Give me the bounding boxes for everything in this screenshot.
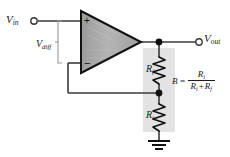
- output-voltage-subscript: out: [211, 37, 221, 46]
- inverting-input-icon: −: [84, 57, 90, 69]
- output-terminal-circle: [196, 39, 202, 45]
- input-voltage-subscript: in: [13, 18, 19, 27]
- output-voltage-symbol: V: [204, 32, 211, 44]
- formula-equals: =: [180, 76, 186, 86]
- formula-den-second-subscript: f: [210, 86, 212, 92]
- noninverting-input-icon: +: [84, 15, 90, 26]
- formula-denominator: Ri+Rf: [188, 80, 215, 91]
- differential-voltage-label: Vdiff: [36, 39, 51, 49]
- differential-voltage-subscript: diff: [42, 43, 51, 50]
- formula-fraction: Ri Ri+Rf: [188, 70, 215, 92]
- vdiff-bracket: [55, 21, 62, 63]
- circuit-diagram: Vin Vdiff Vout Rf Ri + − B = Ri Ri+Rf: [0, 0, 230, 157]
- input-terminal-circle: [31, 18, 37, 24]
- output-voltage-label: Vout: [204, 33, 220, 44]
- input-resistor-subscript: i: [152, 114, 154, 121]
- input-resistor-label: Ri: [146, 110, 154, 120]
- input-voltage-label: Vin: [6, 14, 19, 25]
- feedback-resistor-label: Rf: [146, 64, 154, 74]
- feedback-resistor-subscript: f: [152, 68, 154, 75]
- input-voltage-symbol: V: [6, 13, 13, 25]
- formula-numerator: Ri: [195, 70, 208, 80]
- formula-numerator-subscript: i: [203, 74, 205, 80]
- divider-junction-dot: [156, 90, 163, 97]
- output-junction-dot: [156, 39, 163, 46]
- feedback-factor-formula: B = Ri Ri+Rf: [172, 70, 215, 92]
- formula-den-first-subscript: i: [196, 86, 198, 92]
- formula-lhs: B: [172, 76, 178, 86]
- ground-symbol: [148, 141, 170, 149]
- formula-den-operator: +: [198, 81, 205, 91]
